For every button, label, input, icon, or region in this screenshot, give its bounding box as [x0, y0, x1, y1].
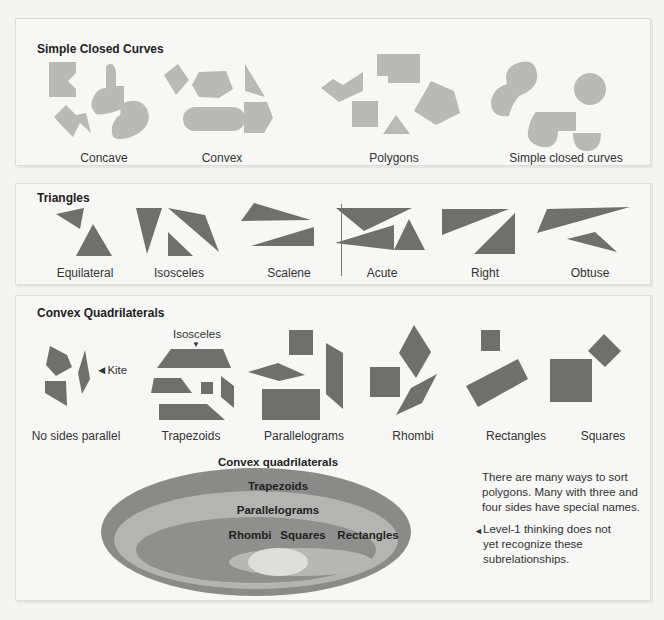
panel-triangles: Triangles Equilateral Isosceles Scalene … [15, 183, 651, 285]
label-polygons: Polygons [369, 151, 418, 165]
label-right: Right [471, 266, 499, 280]
ellipse-label-rectangles: Rectangles [337, 529, 398, 541]
ellipse-label-convex-quadrilaterals: Convex quadrilaterals [218, 456, 338, 468]
ellipse-label-trapezoids: Trapezoids [248, 480, 308, 492]
note-level1-thinking: Level-1 thinking does not yet recognize … [483, 522, 613, 567]
label-squares: Squares [581, 429, 626, 443]
polygon-shapes [321, 54, 460, 134]
label-concave: Concave [80, 151, 127, 165]
label-equilateral: Equilateral [57, 266, 114, 280]
label-isosceles: Isosceles [154, 266, 204, 280]
label-rhombi: Rhombi [392, 429, 433, 443]
curve-shapes [491, 62, 606, 151]
label-obtuse: Obtuse [571, 266, 610, 280]
ellipse-label-rhombi: Rhombi [229, 529, 272, 541]
label-scalene: Scalene [267, 266, 310, 280]
isosceles-annotation: Isosceles [173, 328, 221, 340]
isosceles-marker-icon: ▼ [192, 340, 200, 349]
label-parallelograms: Parallelograms [264, 429, 344, 443]
kite-annotation: ◄Kite [96, 364, 127, 376]
level1-marker-icon: ◄ [474, 524, 483, 539]
label-no-sides-parallel: No sides parallel [32, 429, 121, 443]
label-trapezoids: Trapezoids [162, 429, 221, 443]
concave-shapes [49, 62, 149, 139]
label-simple-closed-curves: Simple closed curves [509, 151, 622, 165]
ellipse-label-parallelograms: Parallelograms [237, 504, 319, 516]
label-rectangles: Rectangles [486, 429, 546, 443]
ellipse-label-squares: Squares [280, 529, 325, 541]
simple-closed-curve-shapes [16, 19, 650, 165]
panel-convex-quadrilaterals: Convex Quadrilaterals [15, 295, 651, 601]
label-convex: Convex [202, 151, 243, 165]
note-sorting: There are many ways to sort polygons. Ma… [482, 470, 652, 515]
panel-simple-closed-curves: Simple Closed Curves [15, 18, 651, 166]
label-acute: Acute [367, 266, 398, 280]
convex-shapes [164, 64, 273, 133]
